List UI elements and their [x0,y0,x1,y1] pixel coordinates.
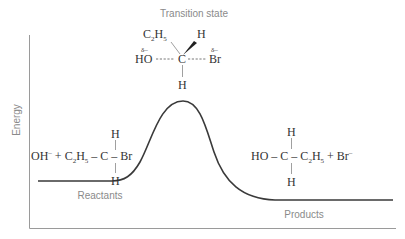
energy-diagram: Energy Transition state C2H5 H δ– HO C δ… [0,0,405,239]
svg-text:H: H [111,174,120,188]
transition-state-label: Transition state [160,8,228,19]
ts-ho: HO [135,52,153,66]
transition-state-structure: C2H5 H δ– HO C δ– Br H [135,27,221,92]
svg-text:C2H5: C2H5 [143,27,167,43]
svg-text:HO–C–C2H5+Br–: HO–C–C2H5+Br– [251,149,353,165]
ts-br: Br [209,52,221,66]
svg-text:H: H [178,78,187,92]
svg-text:H: H [287,125,296,139]
ts-center-c: C [178,52,186,66]
products-label: Products [284,209,323,220]
reactants-structure: H OH–+C2H5–C–Br H [31,127,132,188]
y-axis-label: Energy [11,104,22,136]
products-structure: H HO–C–C2H5+Br– H [251,125,353,189]
svg-text:H: H [287,175,296,189]
ts-top-h: H [197,27,206,41]
svg-text:OH–+C2H5–C–Br: OH–+C2H5–C–Br [31,149,132,165]
svg-text:H: H [111,127,120,141]
reactants-label: Reactants [77,190,122,201]
